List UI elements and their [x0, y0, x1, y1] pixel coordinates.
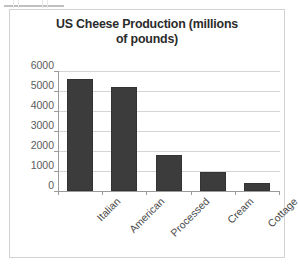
bar-cottage[interactable]: [244, 183, 270, 191]
y-axis-tick: [54, 151, 58, 152]
x-tick-label-american: American: [118, 195, 166, 243]
bar-processed[interactable]: [156, 155, 182, 191]
bar-italian[interactable]: [67, 79, 93, 191]
x-tick-label-cream: Cream: [207, 195, 255, 243]
gridline-6000: [58, 71, 280, 72]
plot-wrapper: 6000 5000 4000 3000 2000 1000 0: [10, 10, 286, 259]
bar-american[interactable]: [111, 87, 137, 191]
y-tick-label: 4000: [12, 100, 54, 110]
y-tick-label: 2000: [12, 140, 54, 150]
y-tick-label: 0: [12, 180, 54, 190]
y-axis-tick: [54, 71, 58, 72]
y-axis-tick: [54, 171, 58, 172]
x-axis-tick-labels: Italian American Processed Cream Cottage: [58, 195, 280, 255]
x-tick-label-cottage: Cottage: [251, 195, 298, 243]
y-tick-label: 3000: [12, 120, 54, 130]
y-tick-label: 5000: [12, 80, 54, 90]
bar-cream[interactable]: [200, 172, 226, 191]
plot-area: [58, 71, 280, 191]
x-tick-label-processed: Processed: [163, 195, 211, 243]
x-axis-baseline: [58, 191, 280, 192]
y-axis-tick: [54, 91, 58, 92]
y-axis-tick-labels: 6000 5000 4000 3000 2000 1000 0: [12, 65, 54, 191]
y-tick-label: 6000: [12, 60, 54, 70]
scan-artifact: [4, 0, 64, 8]
x-tick-label-italian: Italian: [74, 195, 122, 243]
y-tick-label: 1000: [12, 160, 54, 170]
y-axis-tick: [54, 131, 58, 132]
y-axis-tick: [54, 111, 58, 112]
chart-container: US Cheese Production (millions of pounds…: [9, 9, 285, 258]
y-axis-line: [58, 71, 59, 192]
